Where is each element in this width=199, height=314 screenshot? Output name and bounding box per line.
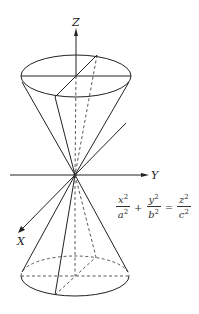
equals-operator: = bbox=[165, 202, 173, 213]
z-axis-arrow-icon bbox=[74, 28, 78, 36]
z-axis bbox=[74, 28, 78, 76]
x-axis-label: X bbox=[17, 236, 25, 247]
y-axis-arrow-icon bbox=[141, 173, 149, 177]
lower-cone bbox=[21, 175, 129, 296]
y-axis-label: Y bbox=[151, 170, 158, 181]
b-exponent: 2 bbox=[155, 208, 159, 216]
a-exponent: 2 bbox=[124, 208, 128, 216]
upper-left-generator bbox=[22, 82, 75, 175]
upper-hidden-axis bbox=[75, 76, 76, 175]
lower-back-generator bbox=[75, 175, 96, 257]
equation-term-x: x2 a2 bbox=[116, 194, 130, 221]
upper-front-generator bbox=[55, 97, 75, 175]
equation-term-y: y2 b2 bbox=[147, 194, 161, 221]
lower-right-generator bbox=[75, 175, 128, 272]
cone-drawing bbox=[0, 0, 199, 314]
cone-equation: x2 a2 + y2 b2 = z2 c2 bbox=[116, 194, 191, 221]
z-axis-label: Z bbox=[72, 17, 80, 28]
y-axis bbox=[10, 173, 149, 177]
plus-operator: + bbox=[134, 202, 142, 213]
x-exponent: 2 bbox=[124, 193, 128, 201]
c-exponent: 2 bbox=[184, 208, 188, 216]
y-exponent: 2 bbox=[154, 193, 158, 201]
equation-term-z: z2 c2 bbox=[177, 194, 191, 221]
lower-ellipse-front bbox=[21, 276, 129, 296]
z-exponent: 2 bbox=[184, 193, 188, 201]
double-cone-figure: Z Y X x2 a2 + y2 b2 = z2 c2 bbox=[0, 0, 199, 314]
